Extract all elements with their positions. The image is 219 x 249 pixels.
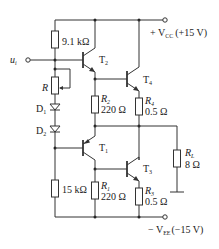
input-terminal: ui [10, 54, 57, 66]
svg-text:D2: D2 [36, 125, 46, 137]
svg-text:T3: T3 [143, 163, 152, 175]
svg-text:220 Ω: 220 Ω [101, 104, 126, 115]
circuit-schematic: + VCC(+15 V) − VEE(−15 V) 9.1 kΩ ui R D1 [0, 0, 219, 249]
resistor-R1: R1 220 Ω [92, 169, 126, 217]
diode-D2: D2 [36, 125, 60, 137]
resistor-R2: R2 220 Ω [92, 79, 126, 126]
svg-text:0.5 Ω: 0.5 Ω [145, 196, 167, 207]
resistor-15k: 15 kΩ [52, 147, 87, 198]
transistor-T3: T3 [127, 157, 152, 181]
resistor-RL: RL 8 Ω [174, 147, 200, 170]
svg-text:9.1 kΩ: 9.1 kΩ [62, 36, 89, 47]
svg-text:0.5 Ω: 0.5 Ω [145, 106, 167, 117]
transistor-T4: T4 [127, 20, 152, 91]
svg-text:T1: T1 [99, 142, 108, 154]
svg-text:15 kΩ: 15 kΩ [62, 184, 87, 195]
svg-text:R: R [41, 82, 48, 93]
svg-text:ui: ui [10, 54, 17, 66]
svg-text:8 Ω: 8 Ω [185, 159, 200, 170]
vee-label: − VEE(−15 V) [148, 224, 203, 236]
vcc-terminal [163, 18, 167, 22]
resistor-9k1: 9.1 kΩ [52, 31, 90, 48]
resistor-R3: R3 0.5 Ω [136, 181, 168, 217]
svg-text:220 Ω: 220 Ω [101, 191, 126, 202]
svg-text:T4: T4 [143, 74, 152, 86]
bottom-rail: − VEE(−15 V) [55, 215, 203, 236]
svg-text:T2: T2 [99, 54, 108, 66]
svg-text:D1: D1 [36, 103, 46, 115]
svg-text:RL: RL [184, 147, 195, 159]
transistor-T2: T2 [55, 19, 108, 80]
diode-D1: D1 [36, 103, 60, 115]
transistor-T1: T1 [55, 126, 108, 169]
vcc-label: + VCC(+15 V) [150, 27, 207, 39]
vee-terminal [163, 215, 167, 219]
